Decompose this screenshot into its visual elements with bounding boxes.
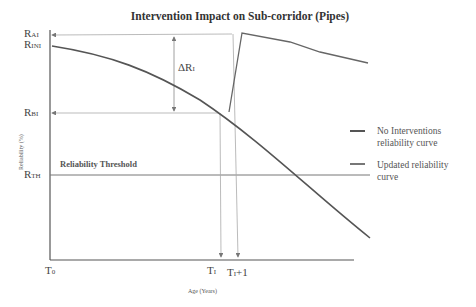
ti-arrow: [220, 113, 221, 257]
reliability-diagram: Intervention Impact on Sub-corridor (Pip…: [0, 0, 476, 307]
rini-label: RINI: [24, 38, 42, 50]
delta-label: ΔRI: [178, 61, 195, 73]
rth-label: RTH: [24, 168, 41, 180]
threshold-label: Reliability Threshold: [60, 159, 137, 169]
legend-item-1-line2: reliability curve: [377, 138, 437, 148]
chart-title: Intervention Impact on Sub-corridor (Pip…: [131, 10, 349, 23]
ti-label: TI: [207, 264, 217, 276]
updated-curve: [229, 33, 368, 112]
legend-item-1-line1: No Interventions: [377, 126, 441, 136]
x-axis-title: Age (Years): [188, 288, 217, 295]
y-axis-title: Reliability (%): [18, 134, 25, 170]
rbi-label: RBI: [24, 106, 39, 118]
no-intervention-curve: [52, 46, 370, 238]
ti1-arrow: [233, 34, 238, 257]
ti1-label: TI+1: [227, 266, 248, 278]
legend-item-2-line1: Updated reliability: [377, 160, 449, 170]
t0-label: T0: [45, 264, 56, 276]
legend-item-2-line2: curve: [377, 172, 398, 182]
rai-arrow: [52, 34, 232, 35]
